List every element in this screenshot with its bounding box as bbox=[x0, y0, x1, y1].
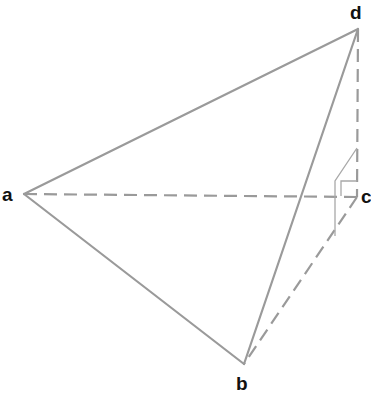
edge-c-b bbox=[244, 197, 357, 364]
edge-a-b bbox=[24, 194, 244, 364]
edge-a-c bbox=[24, 194, 357, 197]
tetrahedron-diagram: a b c d bbox=[0, 0, 371, 401]
vertex-label-d: d bbox=[350, 2, 362, 23]
edge-b-d bbox=[244, 29, 358, 364]
right-angle-marker bbox=[341, 181, 357, 196]
edge-a-d bbox=[24, 29, 358, 194]
edge-d-c bbox=[357, 29, 358, 197]
vertex-label-a: a bbox=[2, 184, 13, 205]
vertex-label-c: c bbox=[361, 186, 371, 207]
vertex-label-b: b bbox=[236, 373, 248, 394]
